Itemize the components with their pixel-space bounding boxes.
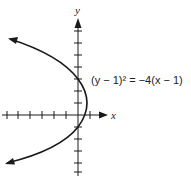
x-axis — [2, 111, 108, 119]
equation-label: (y − 1)² = −4(x − 1) — [91, 74, 183, 86]
parabola-diagram: x y (y − 1)² = −4(x − 1) — [0, 0, 191, 177]
parabola-curve — [7, 39, 87, 163]
y-axis-arrow-icon — [75, 18, 82, 28]
curve-upper-arrow-icon — [8, 37, 18, 44]
y-axis — [74, 18, 82, 176]
curve-lower-arrow-icon — [5, 158, 15, 165]
x-axis-label: x — [110, 109, 116, 121]
y-axis-label: y — [74, 4, 80, 16]
x-axis-arrow-icon — [99, 112, 108, 119]
